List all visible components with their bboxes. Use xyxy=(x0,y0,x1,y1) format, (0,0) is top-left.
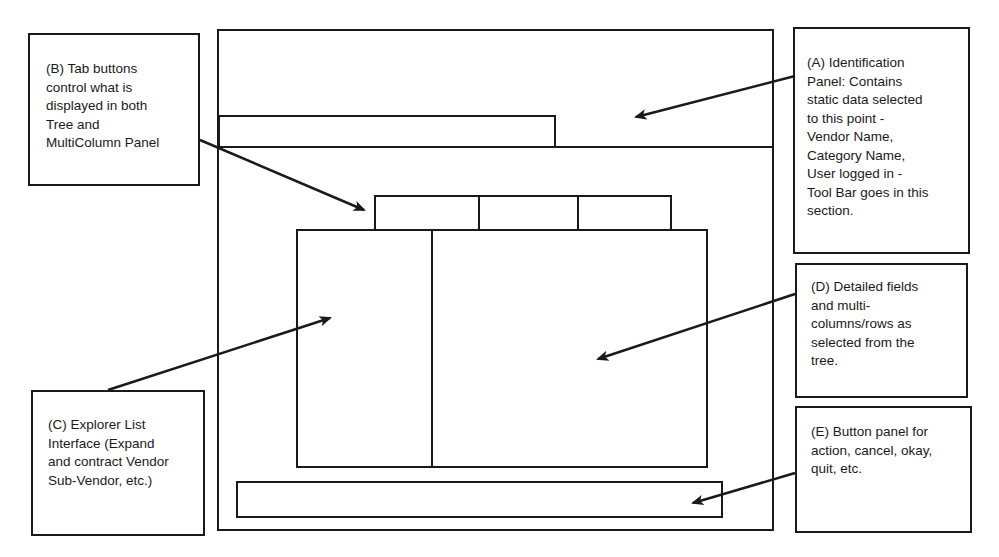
detail-multicolumn-panel[interactable] xyxy=(431,229,708,468)
explorer-tree-panel[interactable] xyxy=(296,229,433,468)
callout-d-text: (D) Detailed fields and multi- columns/r… xyxy=(811,278,918,371)
tab-button-2[interactable] xyxy=(478,195,579,231)
callout-a-text: (A) Identification Panel: Contains stati… xyxy=(807,54,929,221)
toolbar-strip xyxy=(218,115,556,148)
callout-b-text: (B) Tab buttons control what is displaye… xyxy=(46,60,159,153)
tab-button-1[interactable] xyxy=(374,195,480,231)
callout-e-text: (E) Button panel for action, cancel, oka… xyxy=(811,423,932,479)
tab-button-3[interactable] xyxy=(577,195,672,231)
callout-d-detail-panel: (D) Detailed fields and multi- columns/r… xyxy=(795,263,968,398)
button-panel[interactable] xyxy=(236,481,723,518)
callout-a-identification-panel: (A) Identification Panel: Contains stati… xyxy=(793,27,970,254)
callout-b-tab-buttons: (B) Tab buttons control what is displaye… xyxy=(28,33,200,186)
callout-e-button-panel: (E) Button panel for action, cancel, oka… xyxy=(795,406,972,533)
callout-c-text: (C) Explorer List Interface (Expand and … xyxy=(48,416,169,490)
callout-c-explorer-list: (C) Explorer List Interface (Expand and … xyxy=(31,390,205,536)
